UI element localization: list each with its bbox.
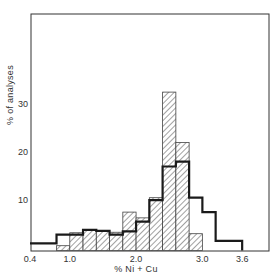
hatched-bar xyxy=(163,92,176,250)
x-tick-label: 2.0 xyxy=(130,254,143,264)
x-tick-label: 3.6 xyxy=(236,254,249,264)
hatched-series xyxy=(57,92,203,250)
x-axis-ticks: 0.41.02.03.03.6 xyxy=(24,254,249,264)
hatched-bar xyxy=(149,198,162,251)
x-tick-label: 1.0 xyxy=(64,254,77,264)
hatched-bar xyxy=(57,246,70,251)
hatched-bar xyxy=(96,231,109,250)
x-tick-label: 0.4 xyxy=(24,254,37,264)
y-axis-title: % of analyses xyxy=(5,65,15,125)
y-tick-label: 10 xyxy=(18,195,28,205)
hatched-bar xyxy=(189,234,202,251)
hatched-bar xyxy=(83,230,96,250)
hatched-bar xyxy=(176,143,189,251)
histogram-chart: 0.41.02.03.03.6 102030 % Ni + Cu % of an… xyxy=(0,0,278,280)
x-tick-label: 3.0 xyxy=(196,254,209,264)
y-axis-ticks: 102030 xyxy=(18,99,28,205)
y-tick-label: 30 xyxy=(18,99,28,109)
y-tick-label: 20 xyxy=(18,147,28,157)
x-axis-title: % Ni + Cu xyxy=(114,264,157,274)
